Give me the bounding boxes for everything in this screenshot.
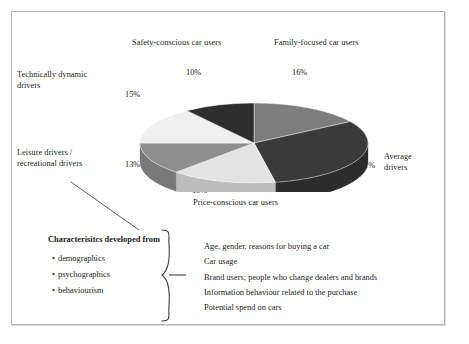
details-item: Brand users; people who change dealers a… bbox=[204, 270, 444, 285]
callout-label-price-conscious: Price-conscious car users bbox=[193, 198, 278, 209]
callout-label-family-focused: Family-focused car users bbox=[274, 38, 359, 49]
callout-label-safety-conscious: Safety-conscious car users bbox=[132, 38, 221, 49]
characteristics-item-label: behaviourism bbox=[58, 286, 104, 295]
characteristics-block: Characterisitcs developed from •demograp… bbox=[48, 234, 168, 299]
pie-top-slices bbox=[140, 103, 368, 183]
characteristics-item: •psychographics bbox=[48, 267, 168, 283]
pie-value-safety-conscious: 10% bbox=[186, 68, 201, 78]
bullet-icon: • bbox=[52, 270, 55, 279]
callout-label-leisure-drivers: Leisure drivers / recreational drivers bbox=[17, 148, 82, 169]
characteristics-item-label: psychographics bbox=[58, 270, 110, 279]
bullet-icon: • bbox=[52, 254, 55, 263]
pie-value-family-focused: 16% bbox=[292, 68, 307, 78]
characteristics-item: •demographics bbox=[48, 251, 168, 267]
details-list: Age, gender, reasons for buying a car Ca… bbox=[204, 239, 444, 315]
details-item: Information behaviour related to the pur… bbox=[204, 285, 444, 300]
details-item: Age, gender, reasons for buying a car bbox=[204, 239, 444, 254]
leader-line bbox=[69, 180, 144, 234]
callout-label-technically-dynamic: Technically dynamic drivers bbox=[17, 70, 87, 91]
callout-label-average-drivers: Average drivers bbox=[384, 152, 412, 173]
details-item: Potential spend on cars bbox=[204, 300, 444, 315]
details-item: Car usage bbox=[204, 254, 444, 269]
figure-frame: Safety-conscious car users Family-focuse… bbox=[11, 11, 445, 325]
bullet-icon: • bbox=[52, 286, 55, 295]
pie-chart[interactable] bbox=[138, 94, 370, 192]
pie-chart-svg bbox=[138, 94, 370, 192]
characteristics-item: •behaviourism bbox=[48, 283, 168, 299]
curly-brace-icon bbox=[160, 228, 190, 324]
characteristics-title: Characterisitcs developed from bbox=[48, 234, 168, 246]
characteristics-item-label: demographics bbox=[58, 254, 105, 263]
